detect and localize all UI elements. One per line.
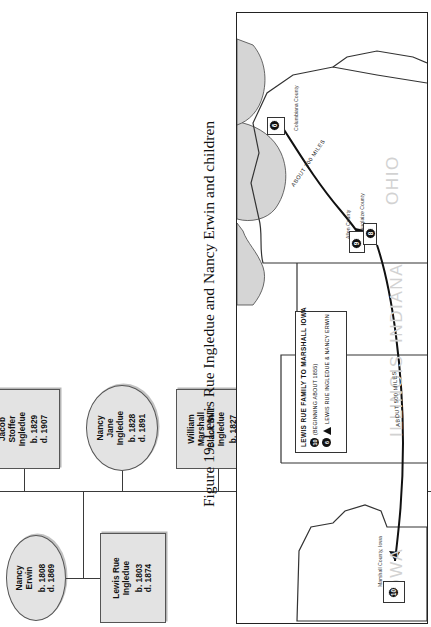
triangle-icon xyxy=(323,427,331,435)
lake-michigan-shape xyxy=(237,121,286,221)
map-marker-6-columbiana[interactable]: 6 xyxy=(269,120,280,131)
map-legend: LEWIS RUE FAMILY TO MARSHALL IOWA 10 (BE… xyxy=(295,311,347,453)
legend-row-origin: 10 (BEGINNING ABOUT 1855) xyxy=(310,317,319,447)
connector-child xyxy=(24,468,25,492)
node-dates: b. 1808d. 1869 xyxy=(38,564,58,592)
node-name: NancyJaneIngledue xyxy=(96,411,126,445)
map-marker-10-marshall[interactable]: 10 xyxy=(388,587,399,598)
legend-subtitle: (BEGINNING ABOUT 1855) xyxy=(312,364,318,435)
figure-caption: Figure 19: Lewis Rue Ingledue and Nancy … xyxy=(196,14,222,614)
legend-marker-6: 6 xyxy=(322,438,331,447)
tree-node-nancy-erwin: NancyErwin b. 1808d. 1869 xyxy=(6,535,66,621)
node-dates: b. 1828d. 1891 xyxy=(128,414,148,442)
tree-node-jacob-stoffer-ingledue: JacobStofferIngledue b. 1829d. 1907 xyxy=(0,389,60,469)
node-name: Lewis RueIngledue xyxy=(112,557,132,598)
legend-marker-10: 10 xyxy=(310,438,319,447)
node-dates: b. 1803d. 1874 xyxy=(135,564,155,592)
sibling-spine-upper xyxy=(0,491,84,492)
iowa-outline xyxy=(297,505,427,621)
node-name: JacobStofferIngledue xyxy=(0,412,27,446)
tree-node-nancy-jane-ingledue: NancyJaneIngledue b. 1828d. 1891 xyxy=(86,385,158,471)
connector-to-spine xyxy=(83,491,84,579)
map-marker-9-allen[interactable]: 9 xyxy=(351,238,362,249)
legend-row-family: 6 LEWIS RUE INGLEDUE & NANCY ERWIN xyxy=(322,317,331,447)
county-label-marshall: Marshall County, Iowa xyxy=(377,536,383,587)
map-marker-8-auglaize[interactable]: 8 xyxy=(365,228,376,239)
lake-michigan-north-shape xyxy=(237,39,265,125)
county-label-columbiana: Columbiana County xyxy=(293,85,299,131)
tree-node-lewis-rue-ingledue: Lewis RueIngledue b. 1803d. 1874 xyxy=(100,533,166,623)
legend-title: LEWIS RUE FAMILY TO MARSHALL IOWA xyxy=(300,317,307,447)
legend-family-text: LEWIS RUE INGLEDUE & NANCY ERWIN xyxy=(324,314,330,424)
node-name: NancyErwin xyxy=(15,565,35,590)
pennsylvania-edge xyxy=(333,51,427,67)
state-label-ohio: OHIO xyxy=(383,155,403,205)
node-dates: b. 1829d. 1907 xyxy=(30,415,50,443)
migration-map: IOWA ILLINOIS INDIANA OHIO ABOUT 500 MIL… xyxy=(236,12,428,624)
figure-page: NancyErwin b. 1808d. 1869 Lewis RueIngle… xyxy=(0,0,431,627)
connector-child xyxy=(122,468,123,492)
state-label-indiana: INDIANA xyxy=(387,263,407,343)
